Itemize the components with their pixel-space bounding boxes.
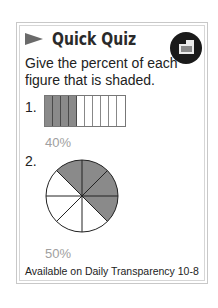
document-glyph: [179, 40, 194, 54]
bar-segment-shaded: [61, 96, 69, 126]
bar-segment: [109, 96, 117, 126]
footer-note: Available on Daily Transparency 10-8: [25, 265, 199, 277]
bar-segment: [93, 96, 101, 126]
bar-segment-shaded: [53, 96, 61, 126]
bar-figure: [44, 95, 126, 127]
bar-segment: [117, 96, 125, 126]
bar-segment-shaded: [69, 96, 77, 126]
bar-segment-shaded: [45, 96, 53, 126]
quiz-prompt: Give the percent of each figure that is …: [25, 55, 185, 89]
question-number-2: 2.: [25, 153, 37, 169]
card-title: Quick Quiz: [52, 28, 136, 49]
circle-figure: [44, 158, 120, 234]
answer-1: 40%: [45, 135, 71, 150]
title-row: Quick Quiz: [25, 28, 160, 49]
quick-quiz-card: Quick Quiz Give the percent of each figu…: [16, 22, 208, 284]
arrow-icon: [25, 33, 43, 45]
answer-2: 50%: [45, 246, 71, 261]
bar-segment: [77, 96, 85, 126]
bar-segment: [101, 96, 109, 126]
bar-segment: [85, 96, 93, 126]
question-number-1: 1.: [25, 99, 37, 115]
